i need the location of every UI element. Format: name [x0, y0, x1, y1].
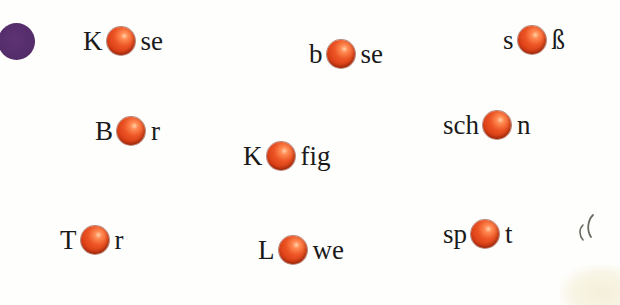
word-kaese: K se: [83, 27, 163, 55]
word-kaefig: K fig: [243, 142, 331, 170]
word-spaet: sp t: [443, 220, 513, 248]
word-loewe: L we: [258, 236, 344, 264]
missing-letter-ball-icon[interactable]: [483, 111, 511, 139]
missing-letter-ball-icon[interactable]: [81, 226, 109, 254]
word-suess: s ß: [503, 26, 565, 54]
word-prefix: L: [258, 237, 275, 264]
word-prefix: T: [60, 227, 77, 254]
missing-letter-ball-icon[interactable]: [471, 220, 499, 248]
page-corner-shadow: [560, 265, 620, 305]
word-suffix: n: [517, 112, 531, 139]
word-suffix: r: [115, 227, 124, 254]
word-prefix: K: [83, 28, 103, 55]
word-suffix: we: [313, 237, 344, 264]
word-suffix: r: [151, 118, 160, 145]
missing-letter-ball-icon[interactable]: [327, 40, 355, 68]
pencil-sketch-mark-icon: [575, 213, 599, 249]
missing-letter-ball-icon[interactable]: [279, 236, 307, 264]
word-tuer: T r: [60, 226, 124, 254]
word-suffix: ß: [552, 27, 566, 54]
word-prefix: b: [309, 41, 323, 68]
missing-letter-ball-icon[interactable]: [267, 142, 295, 170]
missing-letter-ball-icon[interactable]: [107, 27, 135, 55]
word-boese: b se: [309, 40, 383, 68]
word-prefix: sch: [443, 112, 479, 139]
word-suffix: se: [361, 41, 384, 68]
word-baer: B r: [95, 117, 160, 145]
word-prefix: sp: [443, 221, 467, 248]
missing-letter-ball-icon[interactable]: [117, 117, 145, 145]
word-prefix: B: [95, 118, 113, 145]
word-suffix: t: [505, 221, 513, 248]
word-schoen: sch n: [443, 111, 531, 139]
exercise-marker-dot: [0, 23, 35, 60]
word-prefix: s: [503, 27, 514, 54]
word-suffix: se: [141, 28, 164, 55]
word-prefix: K: [243, 143, 263, 170]
missing-letter-ball-icon[interactable]: [518, 26, 546, 54]
word-suffix: fig: [301, 143, 331, 170]
